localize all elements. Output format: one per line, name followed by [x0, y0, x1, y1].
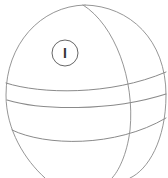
- band-line: [7, 94, 166, 108]
- label-text: I: [63, 45, 67, 61]
- meridian-line: [83, 5, 131, 178]
- sphere-outline: [6, 5, 166, 178]
- band-line: [12, 118, 166, 141]
- sphere-sketch: I: [0, 0, 168, 178]
- band-line: [6, 72, 166, 91]
